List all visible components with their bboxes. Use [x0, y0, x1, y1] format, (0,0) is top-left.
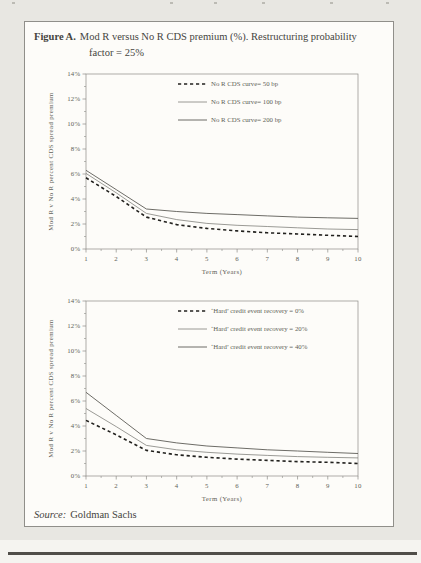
source-label: Source: — [34, 509, 66, 520]
series-line-2 — [86, 170, 358, 218]
figure-title-text: Mod R versus No R CDS premium (%). Restr… — [80, 31, 357, 42]
y-axis-tick-label: 0% — [71, 472, 81, 479]
y-axis-tick-label: 6% — [71, 170, 81, 177]
x-axis-tick-label: 9 — [326, 482, 330, 489]
y-axis-tick-label: 10% — [67, 120, 80, 127]
x-axis-tick-label: 4 — [175, 255, 179, 262]
x-axis-tick-label: 2 — [114, 482, 118, 489]
y-axis-tick-label: 8% — [71, 145, 81, 152]
legend-label-2: No R CDS curve= 200 bp — [211, 116, 282, 123]
y-axis-tick-label: 8% — [71, 372, 81, 379]
x-axis-tick-label: 4 — [175, 482, 179, 489]
y-axis-tick-label: 14% — [67, 297, 80, 304]
x-axis-tick-label: 9 — [326, 255, 330, 262]
y-axis-title: Mod R v No R percent CDS spread premium — [47, 92, 54, 231]
y-axis-tick-label: 4% — [71, 195, 81, 202]
x-axis-tick-label: 3 — [145, 255, 149, 262]
figure-label: Figure A. — [34, 31, 76, 42]
y-axis-tick-label: 12% — [67, 95, 80, 102]
x-axis-title: Term (Years) — [202, 495, 242, 503]
x-axis-tick-label: 6 — [235, 255, 239, 262]
x-axis-tick-label: 2 — [114, 255, 118, 262]
x-axis-tick-label: 7 — [265, 255, 269, 262]
figure-panel: Figure A.Mod R versus No R CDS premium (… — [24, 21, 394, 527]
legend-label-1: No R CDS curve= 100 bp — [211, 98, 282, 105]
x-axis-tick-label: 3 — [145, 482, 149, 489]
y-axis-tick-label: 6% — [71, 397, 81, 404]
x-axis-title: Term (Years) — [202, 268, 242, 276]
figure-title: Figure A.Mod R versus No R CDS premium (… — [34, 29, 386, 61]
cropped-text-remnants — [0, 0, 421, 8]
x-axis-tick-label: 5 — [205, 255, 209, 262]
horizontal-rule — [8, 552, 417, 555]
y-axis-tick-label: 4% — [71, 422, 81, 429]
source-line: Source:Goldman Sachs — [34, 509, 136, 520]
x-axis-tick-label: 10 — [354, 255, 362, 262]
y-axis-tick-label: 12% — [67, 322, 80, 329]
source-text: Goldman Sachs — [70, 509, 136, 520]
cds-premium-chart-top: 0%2%4%6%8%10%12%14%12345678910Term (Year… — [45, 67, 365, 279]
x-axis-tick-label: 8 — [296, 255, 300, 262]
cds-premium-chart-bottom: 0%2%4%6%8%10%12%14%12345678910Term (Year… — [45, 294, 365, 506]
x-axis-tick-label: 7 — [265, 482, 269, 489]
x-axis-tick-label: 1 — [84, 482, 88, 489]
x-axis-tick-label: 5 — [205, 482, 209, 489]
y-axis-title: Mod R v No R percent CDS spread premium — [47, 319, 54, 458]
x-axis-tick-label: 1 — [84, 255, 88, 262]
document-page: Figure A.Mod R versus No R CDS premium (… — [0, 0, 421, 563]
figure-title-line2: factor = 25% — [34, 45, 386, 61]
x-axis-tick-label: 6 — [235, 482, 239, 489]
legend-label-0: No R CDS curve= 50 bp — [211, 80, 279, 87]
y-axis-tick-label: 2% — [71, 220, 81, 227]
legend-label-1: ‘Hard’ credit event recovery = 20% — [211, 325, 308, 332]
y-axis-tick-label: 10% — [67, 347, 80, 354]
y-axis-tick-label: 14% — [67, 70, 80, 77]
series-line-1 — [86, 409, 358, 458]
series-line-1 — [86, 173, 358, 229]
x-axis-tick-label: 10 — [354, 482, 362, 489]
legend-label-0: ‘Hard’ credit event recovery = 0% — [211, 307, 304, 314]
legend-label-2: ‘Hard’ credit event recovery = 40% — [211, 343, 308, 350]
y-axis-tick-label: 2% — [71, 447, 81, 454]
x-axis-tick-label: 8 — [296, 482, 300, 489]
series-line-2 — [86, 392, 358, 453]
series-line-0 — [86, 178, 358, 237]
y-axis-tick-label: 0% — [71, 245, 81, 252]
